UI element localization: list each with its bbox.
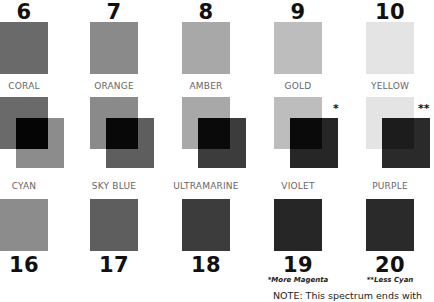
swatch-number: 10 [360, 1, 420, 23]
overlap-intersection [290, 118, 322, 149]
swatch-number: 9 [268, 1, 328, 23]
swatch-label: ULTRAMARINE [161, 181, 251, 192]
overlap-intersection [16, 118, 48, 149]
swatch-label: ORANGE [69, 81, 159, 92]
swatch-label: GOLD [253, 81, 343, 92]
swatch-number: 8 [176, 1, 236, 23]
swatch-number: 19 [268, 254, 328, 276]
color-swatch [274, 199, 322, 251]
swatch-label: CYAN [0, 181, 69, 192]
swatch-number: 20 [360, 254, 420, 276]
swatch-label: SKY BLUE [69, 181, 159, 192]
color-swatch [182, 199, 230, 251]
swatch-number: 7 [84, 1, 144, 23]
swatch-label: AMBER [161, 81, 251, 92]
swatch-number: 16 [0, 254, 54, 276]
color-swatch [90, 22, 138, 74]
color-swatch [90, 199, 138, 251]
color-swatch [182, 22, 230, 74]
swatch-label: CORAL [0, 81, 69, 92]
overlap-intersection [382, 118, 414, 149]
swatch-footnote: *More Magenta [258, 276, 338, 284]
swatch-label: YELLOW [345, 81, 434, 92]
overlap-intersection [106, 118, 138, 149]
color-swatch [0, 199, 48, 251]
footnote-marker: * [333, 104, 339, 114]
color-swatch [0, 22, 48, 74]
swatch-number: 17 [84, 254, 144, 276]
swatch-footnote: **Less Cyan [350, 276, 430, 284]
swatch-number: 6 [0, 1, 54, 23]
spectrum-note: NOTE: This spectrum ends with [273, 290, 422, 302]
swatch-label: PURPLE [345, 181, 434, 192]
color-swatch [366, 22, 414, 74]
color-swatch [366, 199, 414, 251]
color-swatch [274, 22, 322, 74]
swatch-label: VIOLET [253, 181, 343, 192]
swatch-number: 18 [176, 254, 236, 276]
footnote-marker: ** [418, 104, 430, 114]
overlap-intersection [198, 118, 230, 149]
